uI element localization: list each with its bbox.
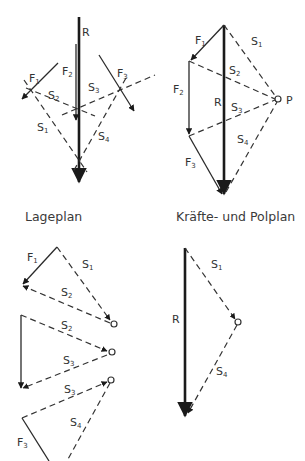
label-S1: S1 [37, 121, 48, 135]
label-F3: F3 [185, 156, 196, 170]
force-F3-line [99, 55, 134, 111]
polplan-S4-ray [226, 102, 277, 192]
label-S4: S4 [216, 365, 228, 379]
triangle3-F3-line [22, 418, 49, 461]
label-S2: S2 [61, 286, 72, 300]
resultant-S1-line [185, 248, 235, 319]
label-R: R [172, 313, 180, 326]
triangle1-pole [111, 321, 117, 327]
decomposed-force-triangles: F1 S1 S2 S2 S3 S3 S4 F3 [17, 247, 117, 461]
label-F3: F3 [117, 67, 128, 81]
label-S4: S4 [237, 133, 249, 147]
polplan: F1 S1 S2 F2 R S3 P S4 F3 Kräfte- und Pol… [173, 25, 295, 224]
caption-polplan: Kräfte- und Polplan [176, 209, 295, 224]
label-S1: S1 [251, 35, 262, 49]
label-S1: S1 [82, 258, 93, 272]
label-S3: S3 [64, 383, 75, 397]
label-S2: S2 [61, 319, 72, 333]
lageplan: R F2 F1 F3 S2 S3 S1 S4 Lageplan [22, 17, 155, 224]
triangle2-pole [109, 349, 115, 355]
label-F1: F1 [27, 251, 38, 265]
rope-S2-line [26, 88, 95, 116]
label-S3: S3 [231, 101, 242, 115]
pole-point-P [275, 96, 281, 102]
label-R: R [82, 26, 90, 39]
label-F2: F2 [62, 65, 73, 79]
caption-lageplan: Lageplan [25, 209, 82, 224]
label-S4: S4 [98, 130, 110, 144]
label-R: R [214, 96, 222, 109]
resultant-pole [235, 319, 241, 325]
label-F1: F1 [195, 34, 206, 48]
triangle3-pole [108, 377, 114, 383]
graphical-statics-diagram: R F2 F1 F3 S2 S3 S1 S4 Lageplan F1 S1 S2… [0, 0, 305, 461]
label-S2: S2 [229, 64, 240, 78]
label-S2: S2 [48, 89, 59, 103]
label-S3: S3 [63, 354, 74, 368]
label-F3: F3 [17, 436, 28, 450]
polplan-S1-ray [224, 25, 276, 97]
resultant-triangle: S1 R S4 [172, 248, 241, 416]
rope-S1-line [24, 80, 87, 172]
rope-S4-line [73, 78, 126, 172]
label-F2: F2 [173, 83, 184, 97]
label-S4: S4 [70, 416, 82, 430]
resultant-S4-line [188, 325, 237, 413]
label-F1: F1 [29, 72, 40, 86]
label-S3: S3 [88, 81, 99, 95]
label-P: P [286, 94, 293, 107]
label-S1: S1 [211, 258, 222, 272]
